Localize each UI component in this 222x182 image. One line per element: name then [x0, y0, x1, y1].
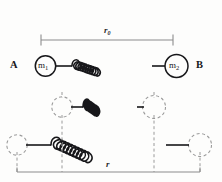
label-r0: r0 [104, 26, 111, 35]
spring-compressed [83, 99, 100, 116]
spring-stretched [51, 137, 92, 162]
label-point-b: B [196, 60, 203, 71]
dimension-r0 [41, 35, 173, 46]
label-mass-m1: m1 [38, 61, 48, 70]
mass-m1-ghost-compressed [52, 97, 72, 117]
equilibrium-row [35, 55, 188, 78]
figure-canvas [0, 0, 222, 182]
compressed-row [52, 96, 166, 119]
spring-equilibrium [72, 60, 100, 76]
physics-figure: r0 A B m1 m2 r [0, 0, 222, 182]
label-r: r [106, 160, 110, 169]
label-mass-m2: m2 [169, 61, 179, 70]
label-point-a: A [10, 60, 18, 71]
